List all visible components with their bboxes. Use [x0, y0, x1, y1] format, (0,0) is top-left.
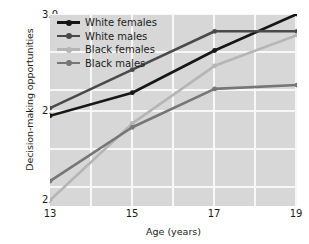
- legend-swatch-icon: [57, 16, 80, 29]
- y-axis-label: Decision-making opportunities: [24, 5, 35, 195]
- data-point: [295, 83, 297, 88]
- x-tick-label-13: 13: [30, 208, 70, 219]
- legend-label-white-males: White males: [85, 31, 147, 42]
- legend-label-white-females: White females: [85, 17, 157, 28]
- legend-marker-icon: [66, 33, 72, 39]
- legend-label-black-males: Black males: [85, 58, 145, 69]
- legend-item-black-males: Black males: [57, 57, 157, 70]
- legend-item-white-females: White females: [57, 16, 157, 29]
- legend-label-black-females: Black females: [85, 44, 155, 55]
- legend-item-black-females: Black females: [57, 43, 157, 56]
- x-tick-label-19: 19: [276, 208, 309, 219]
- x-tick-label-15: 15: [112, 208, 152, 219]
- data-point: [212, 48, 217, 53]
- legend-marker-icon: [66, 20, 72, 26]
- legend-marker-icon: [66, 60, 72, 66]
- legend-item-white-males: White males: [57, 30, 157, 43]
- x-tick-label-17: 17: [194, 208, 234, 219]
- x-axis-label: Age (years): [50, 226, 297, 237]
- data-point: [130, 125, 135, 130]
- legend-swatch-icon: [57, 57, 80, 70]
- data-point: [130, 90, 135, 95]
- legend: White females White males Black females …: [57, 16, 157, 70]
- data-point: [212, 29, 217, 34]
- legend-marker-icon: [66, 47, 72, 53]
- chart-figure: Decision-making opportunities Age (years…: [0, 0, 309, 244]
- legend-swatch-icon: [57, 43, 80, 56]
- data-point: [212, 63, 217, 68]
- legend-swatch-icon: [57, 30, 80, 43]
- data-point: [212, 86, 217, 91]
